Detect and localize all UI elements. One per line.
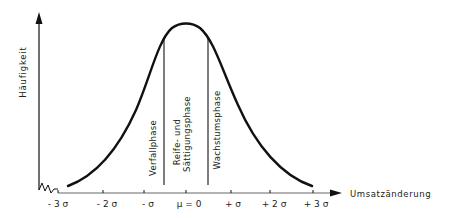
phase-label-maturity-line1: Reife- und: [172, 119, 182, 165]
phase-label-maturity-line2: Sättigungsphase: [182, 96, 192, 172]
tick-label-mu: μ = 0: [177, 199, 202, 209]
tick-label-plus-3-sigma: + 3 σ: [304, 199, 329, 209]
tick-label-plus-2-sigma: + 2 σ: [262, 199, 287, 209]
y-axis-label: Häufigkeit: [18, 46, 28, 97]
tick-label-minus-2-sigma: - 2 σ: [97, 199, 118, 209]
tick-label-minus-3-sigma: - 3 σ: [48, 199, 69, 209]
phase-label-growth: Wachstumsphase: [212, 91, 222, 170]
x-axis-arrow-icon: [330, 190, 342, 197]
y-axis-arrow-icon: [36, 12, 43, 24]
tick-label-plus-sigma: + σ: [225, 199, 241, 209]
x-axis: [39, 183, 342, 197]
phase-label-decline: Verfallphase: [148, 120, 158, 176]
y-axis: [36, 12, 43, 190]
x-axis-label: Umsatzänderung: [350, 189, 431, 199]
axis-break-icon: [39, 183, 58, 193]
tick-label-minus-sigma: - σ: [142, 199, 154, 209]
normal-distribution-diagram: Häufigkeit - 3 σ - 2 σ - σ μ = 0 + σ + 2…: [0, 0, 458, 218]
